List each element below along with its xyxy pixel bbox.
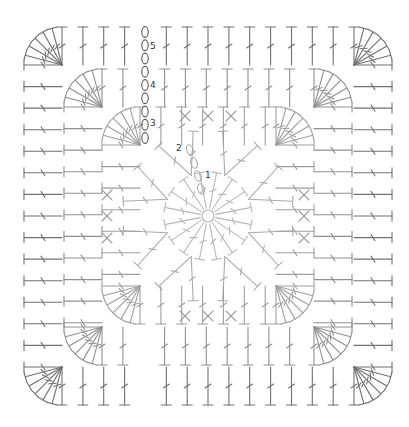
round-label-4: 4 bbox=[150, 81, 156, 90]
round-label-3: 3 bbox=[150, 119, 156, 128]
round-label-2: 2 bbox=[176, 144, 182, 153]
crochet-chart: 12345 bbox=[0, 0, 409, 427]
round-label-5: 5 bbox=[150, 42, 156, 51]
chart-canvas bbox=[0, 0, 409, 427]
round-label-1: 1 bbox=[205, 171, 211, 180]
